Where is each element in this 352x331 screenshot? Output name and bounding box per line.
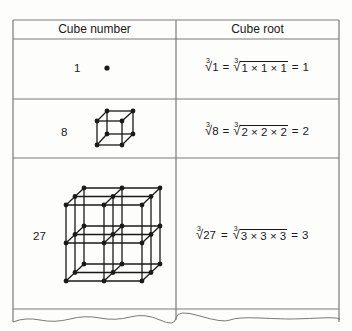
cube-3x3x3-figure	[0, 0, 352, 331]
cube-root-sign: 3√	[233, 228, 240, 242]
cube-root-sign: 3√	[196, 228, 203, 242]
expanded-product: 3 × 3 × 3	[240, 229, 287, 242]
root-result: 3	[302, 228, 308, 242]
table-page: Cube number Cube root 1 3√ 1 = 3√ 1 × 1 …	[0, 0, 352, 331]
radicand: 27	[203, 228, 216, 242]
cube-root-equation-27: 3√ 27 = 3√ 3 × 3 × 3 = 3	[196, 228, 308, 242]
